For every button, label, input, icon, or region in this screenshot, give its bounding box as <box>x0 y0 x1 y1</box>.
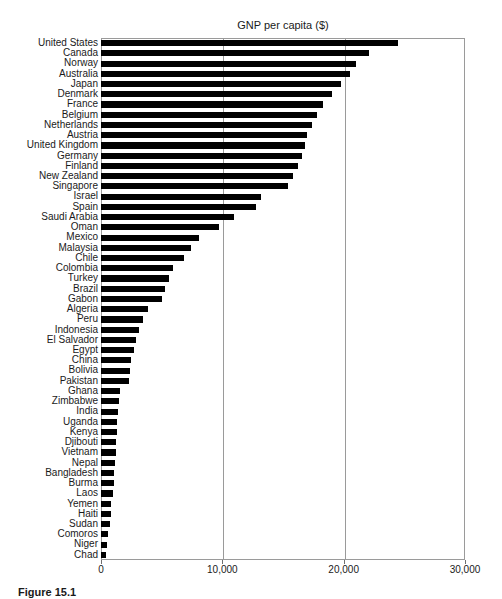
axis-tick-label: 30,000 <box>450 564 481 575</box>
bar <box>101 480 114 486</box>
bar <box>101 40 398 46</box>
axis-tick-label: 10,000 <box>207 564 238 575</box>
bar <box>101 71 350 77</box>
bar <box>101 368 130 374</box>
bar <box>101 460 115 466</box>
category-label: Vietnam <box>61 447 98 457</box>
category-label: Niger <box>74 539 98 549</box>
bar <box>101 101 323 107</box>
bar <box>101 112 317 118</box>
bar <box>101 122 312 128</box>
bar <box>101 306 148 312</box>
category-label: Germany <box>57 151 98 161</box>
category-label: Laos <box>76 488 98 498</box>
bar <box>101 449 116 455</box>
bar <box>101 419 117 425</box>
bar <box>101 194 261 200</box>
category-label: Yemen <box>67 499 98 509</box>
bar <box>101 490 113 496</box>
bar <box>101 531 108 537</box>
category-label: France <box>67 99 98 109</box>
bar <box>101 235 199 241</box>
figure-container: GNP per capita ($) United StatesCanadaNo… <box>0 0 502 599</box>
category-label: United Kingdom <box>27 140 98 150</box>
bars-layer <box>101 38 465 560</box>
bar <box>101 470 114 476</box>
category-label: Bolivia <box>69 365 98 375</box>
bar <box>101 378 129 384</box>
bar <box>101 275 169 281</box>
bar <box>101 409 118 415</box>
bar <box>101 224 219 230</box>
bar <box>101 132 307 138</box>
category-label: India <box>76 406 98 416</box>
bar <box>101 296 162 302</box>
bar <box>101 357 131 363</box>
bar <box>101 183 288 189</box>
bar <box>101 163 298 169</box>
bar <box>101 214 234 220</box>
bar <box>101 511 111 517</box>
category-label: Chad <box>74 550 98 560</box>
bar <box>101 542 107 548</box>
figure-caption: Figure 15.1 <box>18 586 76 598</box>
category-label: Peru <box>77 314 98 324</box>
bar <box>101 153 302 159</box>
bar <box>101 501 111 507</box>
bar <box>101 255 184 261</box>
bar <box>101 61 356 67</box>
category-label: Israel <box>74 191 98 201</box>
bar <box>101 173 293 179</box>
bar <box>101 429 117 435</box>
axis-tick-label: 0 <box>98 564 104 575</box>
axis-tick-label: 20,000 <box>328 564 359 575</box>
bar <box>101 337 136 343</box>
category-axis-labels: United StatesCanadaNorwayAustraliaJapanD… <box>0 38 98 560</box>
bar <box>101 388 120 394</box>
category-label: Turkey <box>68 273 98 283</box>
bar <box>101 316 143 322</box>
bar <box>101 398 119 404</box>
bar <box>101 204 256 210</box>
bar <box>101 286 165 292</box>
bar <box>101 245 191 251</box>
bar <box>101 327 139 333</box>
bar <box>101 552 106 558</box>
bar <box>101 439 116 445</box>
category-label: Indonesia <box>55 325 98 335</box>
bar <box>101 50 369 56</box>
category-label: Mexico <box>66 232 98 242</box>
bar <box>101 521 110 527</box>
bar <box>101 142 305 148</box>
category-label: Norway <box>64 58 98 68</box>
bar <box>101 81 341 87</box>
chart-title: GNP per capita ($) <box>101 19 465 31</box>
bar <box>101 265 173 271</box>
bar <box>101 91 332 97</box>
bar <box>101 347 134 353</box>
